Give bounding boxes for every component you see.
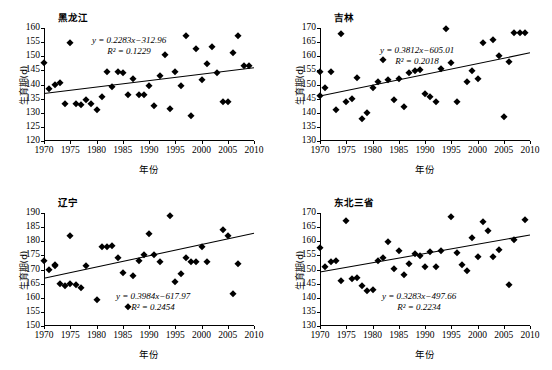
scatter-panel: 辽宁15015516016517017518018519019701975198… [0,185,276,370]
r-squared-value: R² = 0.2234 [382,302,456,313]
trend-line [276,185,552,370]
r-squared-value: R² = 0.2018 [380,56,454,67]
r-squared-value: R² = 0.2454 [116,302,190,313]
scatter-panel: 东北三省130135140145150155160165170197019751… [276,185,552,370]
regression-annotation: y = 0.3812x−605.01R² = 0.2018 [380,45,454,68]
trend-line [0,0,276,185]
regression-annotation: y = 0.3984x−617.97R² = 0.2454 [116,291,190,314]
scatter-panel: 吉林13013514014515015516016517019701975198… [276,0,552,185]
regression-equation: y = 0.3283x−497.66 [382,291,456,302]
r-squared-value: R² = 0.1229 [92,46,166,57]
regression-annotation: y = 0.3283x−497.66R² = 0.2234 [382,291,456,314]
regression-equation: y = 0.2283x−312.96 [92,35,166,46]
trend-line [0,185,276,370]
regression-equation: y = 0.3984x−617.97 [116,291,190,302]
regression-equation: y = 0.3812x−605.01 [380,45,454,56]
regression-annotation: y = 0.2283x−312.96R² = 0.1229 [92,35,166,58]
trend-line [276,0,552,185]
figure-container: 黑龙江1201251301351401451501551601970197519… [0,0,552,370]
scatter-panel: 黑龙江1201251301351401451501551601970197519… [0,0,276,185]
